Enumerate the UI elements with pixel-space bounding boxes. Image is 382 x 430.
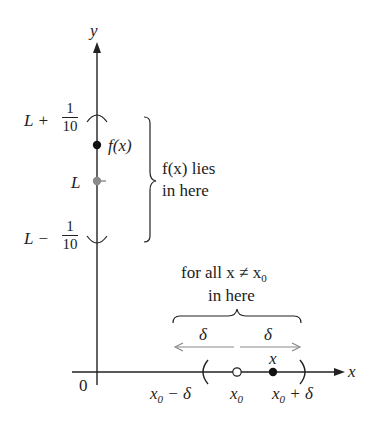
lower-frac-den: 10 <box>63 237 78 252</box>
x-axis-label: x <box>348 363 356 380</box>
fx-lies-text: f(x) lies <box>162 159 215 178</box>
upper-frac-den: 10 <box>63 119 78 134</box>
upper-bound-fraction: 1 10 <box>62 101 78 134</box>
x0-x: x <box>230 384 238 403</box>
x-point-label: x <box>269 350 277 367</box>
delta-left-label: δ <box>199 326 207 343</box>
for-all-sub: 0 <box>261 272 267 284</box>
upper-bound-prefix: L + <box>24 112 49 129</box>
x0-open-point <box>233 368 241 376</box>
x0md-x: x <box>150 384 158 403</box>
x0md-suffix: − δ <box>163 384 191 403</box>
fx-point <box>93 141 101 149</box>
for-all-text: for all x ≠ x <box>181 263 261 282</box>
x0-minus-delta-label: x0 − δ <box>150 385 191 405</box>
for-all-label: for all x ≠ x0 <box>181 264 267 284</box>
in-here-right-label: in here <box>162 182 209 199</box>
in-here-top-label: in here <box>208 287 255 304</box>
upper-frac-num: 1 <box>66 101 74 116</box>
x0-sub: 0 <box>238 393 244 405</box>
x-axis-arrow-icon <box>334 368 345 376</box>
fx-point-label: f(x) <box>108 137 132 154</box>
L-label: L <box>71 174 80 191</box>
L-point <box>93 177 101 185</box>
delta-right-label: δ <box>264 326 272 343</box>
origin-label: 0 <box>79 377 88 394</box>
y-axis-label: y <box>90 22 98 39</box>
y-axis-arrow-icon <box>93 42 101 53</box>
x-point <box>269 368 277 376</box>
x0-label: x0 <box>230 385 243 405</box>
top-brace <box>173 309 301 323</box>
lower-frac-num: 1 <box>66 219 74 234</box>
fx-lies-label: f(x) lies <box>162 160 215 177</box>
diagram-canvas <box>0 0 382 430</box>
lower-bound-prefix: L − <box>24 230 49 247</box>
lower-bound-fraction: 1 10 <box>62 219 78 252</box>
x0pd-suffix: + δ <box>285 384 313 403</box>
right-brace <box>144 117 156 242</box>
x0pd-x: x <box>272 384 280 403</box>
x0-plus-delta-label: x0 + δ <box>272 385 313 405</box>
